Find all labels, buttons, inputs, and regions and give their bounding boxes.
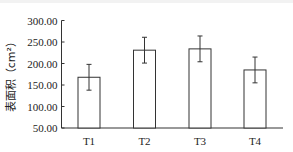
y-tick-label: 250.00 <box>27 36 58 48</box>
bar-chart: 50.00100.00150.00200.00250.00300.00表面积（c… <box>0 0 293 152</box>
y-tick-label: 50.00 <box>33 122 58 134</box>
x-category-label: T3 <box>194 135 207 147</box>
x-category-label: T4 <box>249 135 262 147</box>
y-axis-label: 表面积（cm²） <box>4 36 18 112</box>
y-tick-label: 150.00 <box>27 79 58 91</box>
y-tick-label: 200.00 <box>27 58 58 70</box>
x-category-label: T2 <box>138 135 150 147</box>
y-tick-label: 300.00 <box>27 15 58 27</box>
x-category-label: T1 <box>83 135 95 147</box>
y-tick-label: 100.00 <box>27 101 58 113</box>
